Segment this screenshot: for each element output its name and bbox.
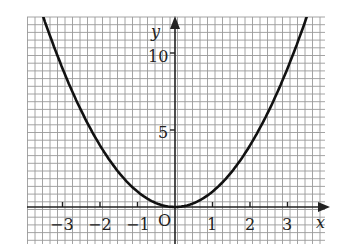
x-tick-neg2: −2	[88, 215, 112, 234]
parabola-chart: y x O 10 5 −3 −2 −1 1 2 3	[0, 0, 340, 251]
y-tick-5: 5	[158, 123, 168, 142]
grid	[27, 17, 325, 244]
parabola-curve	[29, 0, 325, 207]
x-tick-neg3: −3	[50, 215, 74, 234]
y-axis-label: y	[150, 22, 161, 41]
x-tick-3: 3	[282, 215, 292, 234]
x-tick-2: 2	[245, 215, 255, 234]
origin-label: O	[158, 211, 171, 230]
x-tick-neg1: −1	[126, 215, 150, 234]
y-tick-10: 10	[148, 47, 168, 66]
x-tick-1: 1	[207, 215, 217, 234]
x-axis-label: x	[316, 213, 325, 232]
